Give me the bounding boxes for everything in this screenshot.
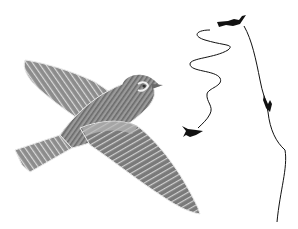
main-bird — [15, 60, 200, 214]
tail — [15, 135, 72, 172]
silhouette-top — [217, 15, 246, 27]
silhouette-diving — [263, 95, 272, 112]
beak — [152, 84, 163, 89]
flight-path-spiral — [190, 30, 230, 128]
flight-path-vertical — [244, 26, 286, 222]
right-wing — [80, 121, 200, 214]
eye — [142, 84, 145, 87]
illustration — [0, 0, 298, 229]
silhouette-bottom-left — [182, 126, 203, 137]
